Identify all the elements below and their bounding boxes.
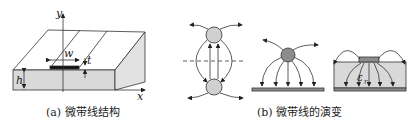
svg-text:h: h	[16, 74, 23, 87]
two-wire-field	[183, 25, 245, 98]
wire-over-ground-field	[252, 40, 324, 91]
svg-text:t: t	[87, 54, 92, 67]
microstrip-field	[334, 51, 406, 91]
permittivity-label: ε	[357, 71, 363, 84]
microstrip-figure: y x w t h	[0, 0, 416, 127]
svg-text:x: x	[137, 90, 144, 103]
caption-a: (a) 微带线结构	[46, 103, 120, 119]
microstrip-structure	[13, 14, 145, 92]
svg-text:y: y	[55, 7, 63, 20]
caption-b: (b) 微带线的演变	[257, 103, 342, 119]
svg-text:w: w	[64, 47, 74, 60]
